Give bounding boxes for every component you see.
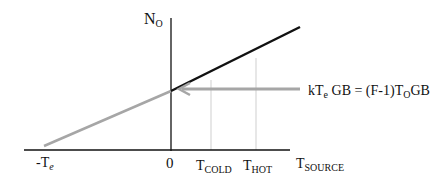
tick-t-hot: THOT <box>243 159 272 175</box>
measured-line <box>171 27 300 91</box>
tick-t-cold: TCOLD <box>196 159 232 175</box>
y-axis-label: NO <box>144 11 163 29</box>
tick-zero: 0 <box>166 156 174 171</box>
noise-temperature-diagram: NO kTe GB = (F-1)TOGB -Te 0 TCOLD THOT T… <box>0 0 445 186</box>
annotation-equation: kTe GB = (F-1)TOGB <box>308 84 430 100</box>
x-axis-label: TSOURCE <box>296 157 344 173</box>
extrapolated-line <box>44 91 171 146</box>
tick-neg-te: -Te <box>36 156 54 172</box>
